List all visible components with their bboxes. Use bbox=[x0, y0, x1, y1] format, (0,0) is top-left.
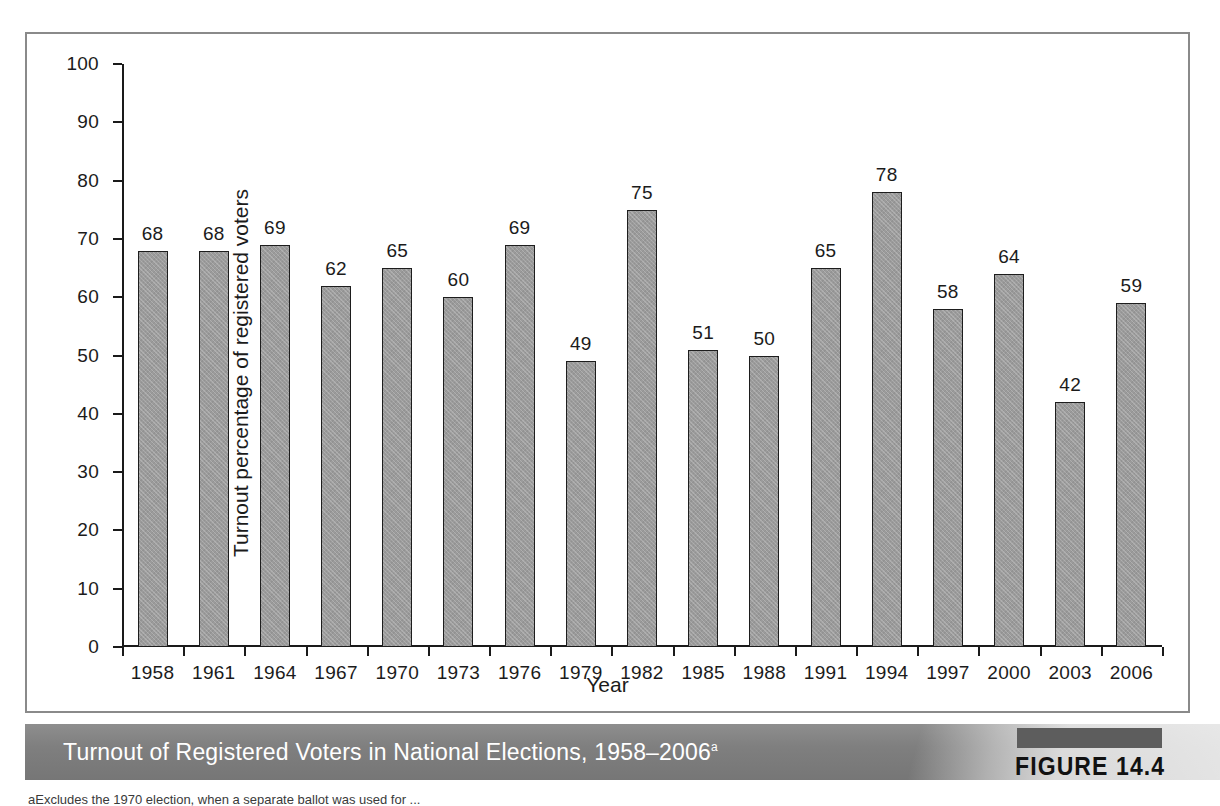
bar-group: 691964 bbox=[244, 64, 305, 647]
bar[interactable] bbox=[688, 350, 718, 647]
bar-group: 592006 bbox=[1101, 64, 1162, 647]
x-axis-tick bbox=[734, 647, 736, 656]
x-axis-tick bbox=[917, 647, 919, 656]
y-axis-tick: 80 bbox=[113, 180, 122, 182]
bars-layer: 6819586819616919646219676519706019736919… bbox=[122, 64, 1162, 647]
bar-group: 681961 bbox=[183, 64, 244, 647]
bar-value-label: 62 bbox=[325, 258, 347, 280]
y-axis-tick-label: 0 bbox=[88, 636, 99, 658]
figure-footnote: aExcludes the 1970 election, when a sepa… bbox=[28, 792, 728, 806]
bar-group: 511985 bbox=[673, 64, 734, 647]
bar-value-label: 64 bbox=[998, 246, 1020, 268]
bar[interactable] bbox=[443, 297, 473, 647]
bar-value-label: 42 bbox=[1059, 374, 1081, 396]
x-axis-tick bbox=[978, 647, 980, 656]
y-axis-tick-label: 10 bbox=[77, 578, 99, 600]
bar[interactable] bbox=[933, 309, 963, 647]
x-axis-tick bbox=[550, 647, 552, 656]
y-axis-tick: 50 bbox=[113, 355, 122, 357]
y-axis-tick-label: 50 bbox=[77, 345, 99, 367]
x-axis-tick bbox=[1101, 647, 1103, 656]
bar-value-label: 68 bbox=[203, 223, 225, 245]
x-axis-tick bbox=[489, 647, 491, 656]
y-axis-tick: 30 bbox=[113, 471, 122, 473]
y-axis-tick: 0 bbox=[113, 646, 122, 648]
bar-group: 781994 bbox=[856, 64, 917, 647]
y-axis-tick-label: 70 bbox=[77, 228, 99, 250]
bar[interactable] bbox=[321, 286, 351, 647]
bar-group: 651991 bbox=[795, 64, 856, 647]
bar-value-label: 51 bbox=[692, 322, 714, 344]
x-axis-tick bbox=[673, 647, 675, 656]
bar-group: 501988 bbox=[734, 64, 795, 647]
x-axis-tick bbox=[1040, 647, 1042, 656]
bar[interactable] bbox=[1116, 303, 1146, 647]
bar-group: 601973 bbox=[428, 64, 489, 647]
chart-frame: Turnout percentage of registered voters … bbox=[25, 32, 1190, 713]
bar[interactable] bbox=[199, 251, 229, 647]
figure-caption: Turnout of Registered Voters in National… bbox=[63, 739, 718, 766]
x-axis-tick bbox=[611, 647, 613, 656]
bar-value-label: 50 bbox=[753, 328, 775, 350]
bar-value-label: 75 bbox=[631, 182, 653, 204]
bar[interactable] bbox=[505, 245, 535, 647]
bar-group: 751982 bbox=[611, 64, 672, 647]
x-axis-tick bbox=[1162, 647, 1164, 656]
y-axis-tick-label: 40 bbox=[77, 403, 99, 425]
bar-group: 621967 bbox=[306, 64, 367, 647]
bar-group: 581997 bbox=[917, 64, 978, 647]
x-axis-tick bbox=[122, 647, 124, 656]
y-axis-tick-label: 90 bbox=[77, 111, 99, 133]
bar-value-label: 65 bbox=[815, 240, 837, 262]
bar-group: 691976 bbox=[489, 64, 550, 647]
y-axis-tick: 20 bbox=[113, 529, 122, 531]
bar-value-label: 69 bbox=[264, 217, 286, 239]
bar[interactable] bbox=[749, 356, 779, 648]
caption-label: Turnout of Registered Voters in National… bbox=[63, 739, 711, 765]
y-axis-tick: 60 bbox=[113, 296, 122, 298]
x-axis-tick bbox=[856, 647, 858, 656]
x-axis-title: Year bbox=[27, 673, 1188, 697]
y-axis-tick: 90 bbox=[113, 121, 122, 123]
x-axis-tick bbox=[244, 647, 246, 656]
x-axis-tick bbox=[183, 647, 185, 656]
bar-value-label: 68 bbox=[142, 223, 164, 245]
bar-group: 642000 bbox=[978, 64, 1039, 647]
x-axis-tick bbox=[428, 647, 430, 656]
bar[interactable] bbox=[566, 361, 596, 647]
bar[interactable] bbox=[811, 268, 841, 647]
figure-number-tab bbox=[1017, 728, 1162, 748]
bar[interactable] bbox=[138, 251, 168, 647]
caption-superscript-marker: a bbox=[711, 740, 718, 754]
y-axis-tick-label: 100 bbox=[66, 53, 99, 75]
bar-value-label: 49 bbox=[570, 333, 592, 355]
bar[interactable] bbox=[872, 192, 902, 647]
figure-number-label: FIGURE 14.4 bbox=[1015, 752, 1165, 781]
bar-group: 681958 bbox=[122, 64, 183, 647]
y-axis-tick: 10 bbox=[113, 588, 122, 590]
y-axis-tick: 40 bbox=[113, 413, 122, 415]
y-axis-tick-label: 60 bbox=[77, 286, 99, 308]
y-axis-tick-label: 80 bbox=[77, 170, 99, 192]
x-axis-tick bbox=[367, 647, 369, 656]
x-axis-tick bbox=[795, 647, 797, 656]
bar-value-label: 59 bbox=[1121, 275, 1143, 297]
bar[interactable] bbox=[382, 268, 412, 647]
bar[interactable] bbox=[260, 245, 290, 647]
bar[interactable] bbox=[627, 210, 657, 647]
bar-value-label: 58 bbox=[937, 281, 959, 303]
bar-value-label: 78 bbox=[876, 164, 898, 186]
bar-group: 422003 bbox=[1040, 64, 1101, 647]
figure-container: Turnout percentage of registered voters … bbox=[0, 0, 1220, 806]
bar-value-label: 65 bbox=[386, 240, 408, 262]
x-axis-tick bbox=[306, 647, 308, 656]
bar-group: 491979 bbox=[550, 64, 611, 647]
bar[interactable] bbox=[1055, 402, 1085, 647]
y-axis-tick: 100 bbox=[113, 63, 122, 65]
y-axis-tick-label: 20 bbox=[77, 519, 99, 541]
bar[interactable] bbox=[994, 274, 1024, 647]
plot-area: 0102030405060708090100 68195868196169196… bbox=[122, 64, 1162, 647]
bar-value-label: 69 bbox=[509, 217, 531, 239]
y-axis-tick-label: 30 bbox=[77, 461, 99, 483]
bar-value-label: 60 bbox=[448, 269, 470, 291]
